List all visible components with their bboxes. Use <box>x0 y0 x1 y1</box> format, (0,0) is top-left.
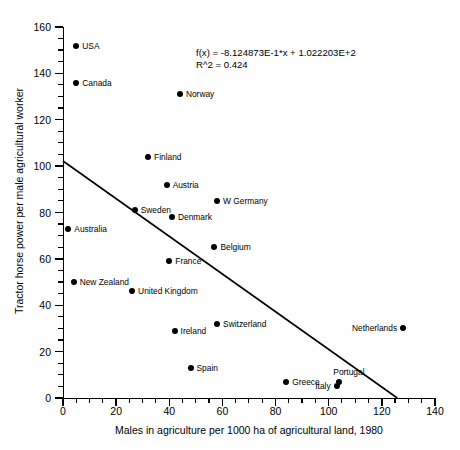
data-point-label: Denmark <box>178 213 212 221</box>
data-point-label: New Zealand <box>80 278 129 286</box>
data-point-label: Norway <box>186 90 214 98</box>
data-point[interactable] <box>214 321 220 327</box>
data-point-label: Australia <box>74 225 107 233</box>
scatter-chart: 020406080100120140160020406080100120140 … <box>0 0 460 450</box>
data-point[interactable] <box>73 43 79 49</box>
data-point[interactable] <box>73 80 79 86</box>
data-point-label: Ireland <box>181 327 207 335</box>
data-point[interactable] <box>188 365 194 371</box>
data-point-label: Belgium <box>220 243 250 251</box>
data-point[interactable] <box>145 154 151 160</box>
data-point-label: Canada <box>82 79 111 87</box>
regression-line <box>0 0 460 450</box>
data-point-label: USA <box>82 42 99 50</box>
data-point-label: Portugal <box>333 368 364 376</box>
data-point[interactable] <box>172 328 178 334</box>
data-point-label: Austria <box>173 181 199 189</box>
data-point-label: Spain <box>197 364 218 372</box>
data-point[interactable] <box>132 207 138 213</box>
data-point[interactable] <box>164 182 170 188</box>
data-point-label: Switzerland <box>223 320 266 328</box>
data-point-label: Netherlands <box>337 324 397 332</box>
data-point[interactable] <box>214 198 220 204</box>
data-point-label: United Kingdom <box>138 287 198 295</box>
data-point-label: W Germany <box>223 197 268 205</box>
data-point-label: France <box>175 257 201 265</box>
data-point-label: Finland <box>154 153 181 161</box>
data-point-label: Sweden <box>141 206 171 214</box>
data-point[interactable] <box>71 279 77 285</box>
data-point-label: Italy <box>271 382 331 390</box>
